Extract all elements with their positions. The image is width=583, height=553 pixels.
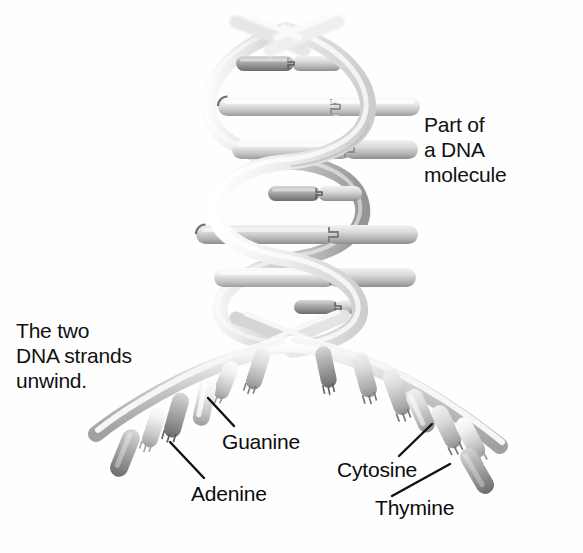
leader-line-cytosine <box>399 424 432 456</box>
unpaired-base <box>350 350 379 405</box>
unpaired-base <box>161 391 191 445</box>
double-helix-wound <box>196 18 420 350</box>
caption-strands-unwind: The two DNA strands unwind. <box>16 318 132 393</box>
dna-illustration <box>0 0 583 553</box>
label-adenine: Adenine <box>191 482 267 506</box>
label-cytosine: Cytosine <box>337 458 417 482</box>
base-pair-rung <box>268 186 362 201</box>
unpaired-base-guanine <box>191 377 218 427</box>
base-pair-rung <box>236 56 342 71</box>
label-thymine: Thymine <box>375 496 454 520</box>
caption-part-of-dna-molecule: Part of a DNA molecule <box>424 112 506 187</box>
unpaired-base-adenine <box>107 426 142 479</box>
unpaired-base <box>139 405 168 454</box>
label-guanine: Guanine <box>222 430 300 454</box>
base-pair-rung <box>218 97 420 117</box>
dna-figure: Part of a DNA molecule The two DNA stran… <box>0 0 583 553</box>
leader-line-adenine <box>170 442 204 478</box>
